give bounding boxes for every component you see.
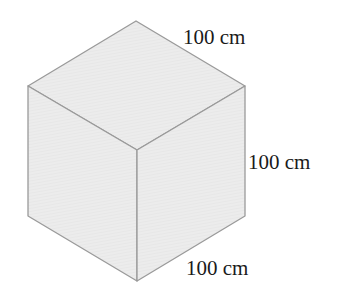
bottom-edge-label: 100 cm	[186, 256, 248, 280]
cube-diagram: 100 cm 100 cm 100 cm	[0, 0, 345, 291]
top-edge-label: 100 cm	[183, 25, 245, 49]
right-edge-label: 100 cm	[248, 150, 310, 174]
